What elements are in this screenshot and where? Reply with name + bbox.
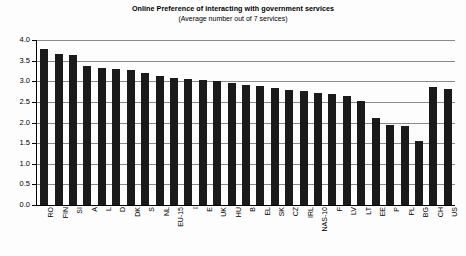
gridline [37, 40, 455, 41]
bar [285, 90, 293, 206]
x-axis-tick-label-wrap: UK [220, 207, 228, 253]
x-axis-tick-label: CH [437, 207, 445, 253]
x-axis-tick-label-wrap: P [393, 207, 401, 253]
x-axis-tick-label: SI [76, 207, 84, 253]
y-axis-tick-label: 0.5 [4, 180, 30, 188]
x-axis-tick-label: US [451, 207, 459, 253]
bar [112, 69, 120, 205]
x-axis-tick-label-wrap: EE [379, 207, 387, 253]
y-axis-tick-mark [32, 123, 36, 124]
x-axis-tick-label-wrap: IRL [307, 207, 315, 253]
x-axis-tick-label: EE [379, 207, 387, 253]
y-axis-tick-label: 1.0 [4, 160, 30, 168]
y-axis-tick-mark [32, 184, 36, 185]
bar [242, 85, 250, 205]
bar [386, 125, 394, 205]
bar [314, 93, 322, 205]
bar [372, 118, 380, 205]
x-axis-tick-label-wrap: E [206, 207, 214, 253]
x-axis-tick-label-wrap: US [451, 207, 459, 253]
bar [343, 96, 351, 205]
x-axis-tick-label-wrap: A [91, 207, 99, 253]
bar [156, 76, 164, 205]
y-axis-tick-label: 3.0 [4, 77, 30, 85]
x-axis-tick-label: I [192, 207, 200, 253]
y-axis-tick-label: 0.0 [4, 201, 30, 209]
bar [328, 94, 336, 205]
x-axis-tick-label: NAS-10 [321, 207, 329, 253]
bar [357, 101, 365, 205]
x-axis-tick-label: IRL [307, 207, 315, 253]
x-axis-tick-label-wrap: I [192, 207, 200, 253]
bar [83, 66, 91, 205]
bar [256, 86, 264, 205]
bar [184, 79, 192, 205]
x-axis-tick-label: UK [220, 207, 228, 253]
bar [40, 49, 48, 205]
x-axis-tick-label: LV [350, 207, 358, 253]
x-axis-tick-label-wrap: HU [235, 207, 243, 253]
bar [141, 73, 149, 205]
bar [98, 68, 106, 205]
x-axis-tick-label-wrap: F [336, 207, 344, 253]
x-axis-tick-label-wrap: D [119, 207, 127, 253]
chart-container: Online Preference of interacting with go… [0, 0, 466, 256]
bar [170, 78, 178, 205]
x-axis-labels: ROFINSIALDDKSNLEU-15IEUKHUBELSKCZIRLNAS-… [37, 207, 455, 256]
y-axis-tick-mark [32, 143, 36, 144]
x-axis-tick-label-wrap: BG [422, 207, 430, 253]
bar [213, 81, 221, 205]
bar [401, 126, 409, 205]
x-axis-tick-label-wrap: PL [408, 207, 416, 253]
bar [127, 70, 135, 205]
x-axis-tick-label: B [249, 207, 257, 253]
x-axis-tick-label-wrap: NL [163, 207, 171, 253]
y-axis-tick-label: 4.0 [4, 36, 30, 44]
x-axis-tick-label-wrap: FIN [62, 207, 70, 253]
y-axis-tick-mark [32, 164, 36, 165]
bar [429, 87, 437, 205]
x-axis-tick-label-wrap: EU-15 [177, 207, 185, 253]
y-axis-labels: 4.03.53.02.52.01.51.00.50.0 [0, 0, 30, 256]
x-axis-tick-label: EL [264, 207, 272, 253]
y-axis-tick-mark [32, 102, 36, 103]
x-axis-tick-label-wrap: SI [76, 207, 84, 253]
x-axis-tick-label-wrap: CH [437, 207, 445, 253]
bar [415, 141, 423, 205]
x-axis-tick-label-wrap: EL [264, 207, 272, 253]
y-axis-tick-mark [32, 205, 36, 206]
x-axis-tick-label-wrap: CZ [292, 207, 300, 253]
x-axis-tick-label: SK [278, 207, 286, 253]
gridline [37, 61, 455, 62]
x-axis-tick-label-wrap: LT [365, 207, 373, 253]
bar [271, 88, 279, 205]
bar [55, 54, 63, 205]
x-axis-tick-label-wrap: DK [134, 207, 142, 253]
x-axis-tick-label-wrap: RO [47, 207, 55, 253]
x-axis-tick-label: BG [422, 207, 430, 253]
x-axis-tick-label: S [148, 207, 156, 253]
gridline [37, 205, 455, 206]
bar [444, 89, 452, 205]
plot-area [37, 40, 455, 205]
x-axis-tick-label: RO [47, 207, 55, 253]
x-axis-tick-label: E [206, 207, 214, 253]
x-axis-tick-label: CZ [292, 207, 300, 253]
x-axis-tick-label: P [393, 207, 401, 253]
x-axis-tick-label-wrap: NAS-10 [321, 207, 329, 253]
page-title: Online Preference of interacting with go… [0, 4, 466, 14]
x-axis-tick-label: D [119, 207, 127, 253]
y-axis-tick-mark [32, 40, 36, 41]
y-axis-tick-mark [32, 81, 36, 82]
bar [300, 91, 308, 205]
x-axis-tick-label-wrap: LV [350, 207, 358, 253]
y-axis-tick-label: 3.5 [4, 57, 30, 65]
bar [199, 80, 207, 205]
x-axis-tick-label-wrap: B [249, 207, 257, 253]
x-axis-tick-label: DK [134, 207, 142, 253]
y-axis-tick-label: 1.5 [4, 139, 30, 147]
x-axis-tick-label: L [105, 207, 113, 253]
x-axis-tick-label: A [91, 207, 99, 253]
y-axis-tick-label: 2.5 [4, 98, 30, 106]
x-axis-tick-label: NL [163, 207, 171, 253]
